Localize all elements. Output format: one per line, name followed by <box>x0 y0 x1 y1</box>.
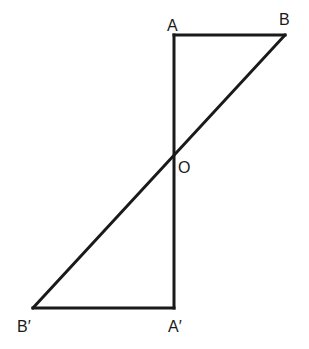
label-A: A <box>167 17 178 34</box>
segment-BB-prime <box>33 35 285 308</box>
label-A-prime: A′ <box>168 318 182 335</box>
diagram-canvas: A B O A′ B′ <box>0 0 309 349</box>
similar-triangles-figure: A B O A′ B′ <box>0 0 309 349</box>
label-B-prime: B′ <box>17 318 31 335</box>
segments <box>33 35 285 308</box>
label-O: O <box>178 159 190 176</box>
label-B: B <box>279 11 290 28</box>
point-labels: A B O A′ B′ <box>17 11 290 335</box>
